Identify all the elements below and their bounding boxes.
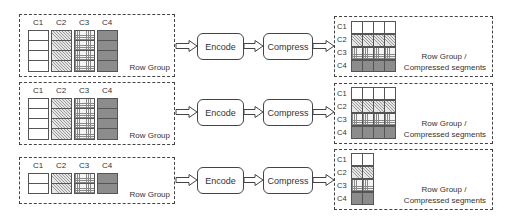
output-label-line1: Row Group / — [400, 51, 488, 62]
column-label-c3: C3 — [74, 161, 94, 170]
segment-label-c4: C4 — [337, 128, 347, 137]
cell — [28, 183, 49, 194]
cell — [28, 128, 49, 140]
segment-label-c4: C4 — [337, 194, 347, 203]
encode-step: Encode — [197, 167, 244, 194]
segment-label-c1: C1 — [337, 89, 347, 98]
output-label-line2: Compressed segments — [400, 195, 490, 206]
segment — [362, 179, 374, 192]
segment — [362, 166, 374, 179]
encode-step: Encode — [197, 99, 244, 126]
column-label-c2: C2 — [51, 86, 71, 95]
segment-label-c3: C3 — [337, 115, 347, 124]
segment-label-c3: C3 — [337, 48, 347, 57]
column-label-c4: C4 — [97, 18, 117, 27]
arrow-icon — [313, 174, 335, 186]
column-label-c1: C1 — [28, 161, 48, 170]
arrow-icon — [313, 106, 335, 118]
segment — [384, 47, 396, 60]
segment-label-c3: C3 — [337, 181, 347, 190]
compress-step: Compress — [263, 33, 313, 60]
row-group-label: Row Group — [110, 62, 170, 73]
compress-step: Compress — [263, 99, 313, 126]
arrow-icon — [176, 106, 198, 118]
output-label-line1: Row Group / — [400, 118, 488, 129]
segment — [384, 126, 396, 139]
column-label-c4: C4 — [97, 161, 117, 170]
column-label-c1: C1 — [28, 86, 48, 95]
arrow-icon — [244, 106, 264, 118]
arrow-icon — [244, 174, 264, 186]
segment — [384, 21, 396, 34]
segment — [384, 113, 396, 126]
cell — [28, 60, 49, 72]
segment-label-c4: C4 — [337, 61, 347, 70]
column-label-c3: C3 — [74, 18, 94, 27]
column-label-c2: C2 — [51, 18, 71, 27]
output-label-line1: Row Group / — [400, 184, 488, 195]
cell — [74, 183, 95, 194]
column-label-c2: C2 — [51, 161, 71, 170]
encode-step: Encode — [197, 33, 244, 60]
column-label-c1: C1 — [28, 18, 48, 27]
cell — [74, 60, 95, 72]
output-label-line2: Compressed segments — [400, 62, 490, 73]
cell — [51, 128, 72, 140]
arrow-icon — [176, 40, 198, 52]
row-group-label: Row Group — [110, 130, 170, 141]
output-label-line2: Compressed segments — [400, 129, 490, 140]
arrow-icon — [244, 40, 264, 52]
segment — [362, 192, 374, 205]
segment — [362, 153, 374, 166]
segment — [384, 34, 396, 47]
column-label-c3: C3 — [74, 86, 94, 95]
segment — [384, 60, 396, 72]
cell — [51, 60, 72, 72]
arrow-icon — [313, 40, 335, 52]
segment — [384, 100, 396, 113]
segment-label-c2: C2 — [337, 102, 347, 111]
arrow-icon — [176, 174, 198, 186]
compress-step: Compress — [263, 167, 313, 194]
segment-label-c1: C1 — [337, 155, 347, 164]
segment-label-c2: C2 — [337, 168, 347, 177]
cell — [51, 183, 72, 194]
column-label-c4: C4 — [97, 86, 117, 95]
row-group-label: Row Group — [110, 189, 170, 200]
cell — [74, 128, 95, 140]
segment-label-c2: C2 — [337, 35, 347, 44]
segment-label-c1: C1 — [337, 22, 347, 31]
segment — [384, 87, 396, 100]
